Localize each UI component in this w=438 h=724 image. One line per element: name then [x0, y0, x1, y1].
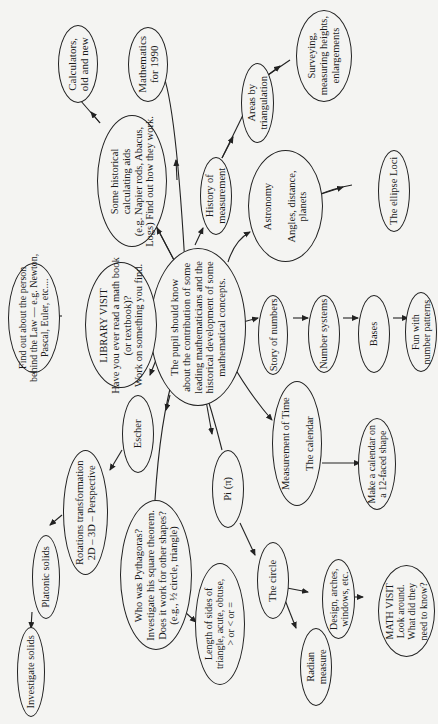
- node-platonic: Platonic solids: [32, 535, 60, 619]
- node-label: Measurement of Time The calendar: [279, 397, 314, 490]
- node-maths1990: Mathematics for 1990: [128, 27, 168, 102]
- node-label: History of measurement: [204, 168, 228, 224]
- node-label: Number systems: [318, 299, 330, 369]
- node-center: The pupil should know about the contribu…: [150, 248, 246, 406]
- edge-circle-radian: [285, 600, 296, 628]
- node-story: Story of numbers: [258, 295, 288, 375]
- node-label: Length of sides of triangle, acute, obtu…: [203, 579, 237, 669]
- node-investigate: Investigate solids: [17, 627, 45, 717]
- node-label: The circle: [267, 559, 279, 601]
- node-label: Investigate solids: [25, 635, 37, 708]
- node-label: Make a calendar on a 12-faced shape: [366, 425, 388, 504]
- node-circle: The circle: [257, 542, 289, 619]
- node-label: Astronomy Angles, distance, planets: [262, 170, 309, 242]
- node-label: Surveying, measuring heights, enlargemen…: [306, 16, 341, 95]
- node-label: The ellipse Loci: [388, 157, 400, 225]
- edge-center-histmeas: [195, 228, 203, 245]
- node-design: Design, arches, windows, etc.: [322, 559, 355, 639]
- node-mathvisit: MATH VISIT Look around. What did they ne…: [378, 565, 435, 657]
- node-label: Escher: [132, 420, 144, 449]
- node-label: Some historical calculating aids (e.g. N…: [109, 116, 156, 247]
- edge-escher-rotations: [110, 450, 122, 470]
- edge-rotations-platonic: [50, 515, 62, 525]
- node-label: Find out about the person behind the Law…: [17, 254, 51, 382]
- node-funpatterns: Fun with number patterns: [405, 292, 437, 372]
- node-lengthsides: Length of sides of triangle, acute, obtu…: [195, 563, 245, 685]
- node-pi: Pi (π): [212, 450, 244, 528]
- node-label: Fun with number patterns: [410, 300, 432, 365]
- node-rotations: Rotations transformation 2D – 3D – Persp…: [63, 450, 108, 575]
- node-areas: Areas by triangulation: [241, 63, 274, 143]
- node-label: LIBRARY VISIT Have you ever read a math …: [98, 257, 145, 393]
- node-label: MATH VISIT Look around. What did they ne…: [384, 582, 429, 640]
- edge-pi-circle: [240, 523, 255, 555]
- concept-map: The pupil should know about the contribu…: [0, 0, 438, 724]
- node-label: Bases: [368, 322, 380, 347]
- node-pythagoras: Who was Pythagoras? Investigate his squa…: [120, 500, 192, 650]
- node-findout: Find out about the person behind the Law…: [8, 263, 60, 373]
- node-timemeas: Measurement of Time The calendar: [272, 381, 322, 506]
- edge-center-astronomy: [228, 232, 250, 262]
- node-calculators: Calculators, old and new: [58, 25, 98, 103]
- node-escher: Escher: [122, 395, 154, 473]
- node-label: Areas by triangulation: [246, 76, 270, 130]
- node-label: Platonic solids: [40, 546, 52, 608]
- node-label: Who was Pythagoras? Investigate his squa…: [133, 510, 180, 641]
- node-label: Mathematics for 1990: [136, 36, 161, 93]
- node-label: Radian measure: [304, 650, 328, 685]
- node-label: Design, arches, windows, etc.: [327, 568, 349, 629]
- node-numsys: Number systems: [308, 295, 340, 373]
- node-radian: Radian measure: [300, 628, 332, 706]
- node-surveying: Surveying, measuring heights, enlargemen…: [296, 10, 352, 102]
- node-ellipse: The ellipse Loci: [378, 150, 410, 232]
- node-histmeas: History of measurement: [200, 157, 232, 235]
- node-label: Pi (π): [222, 477, 234, 501]
- node-calcaids: Some historical calculating aids (e.g. N…: [97, 115, 167, 247]
- edge-platonic-investigate: [31, 612, 32, 628]
- node-label: Calculators, old and new: [66, 37, 91, 91]
- node-label: Rotations transformation 2D – 3D – Persp…: [74, 460, 98, 565]
- node-library: LIBRARY VISIT Have you ever read a math …: [85, 262, 157, 388]
- node-label: The pupil should know about the contribu…: [169, 261, 228, 394]
- edge-circle-design: [287, 588, 308, 592]
- node-astronomy: Astronomy Angles, distance, planets: [248, 150, 323, 262]
- node-bases: Bases: [358, 295, 390, 373]
- node-makecal: Make a calendar on a 12-faced shape: [358, 418, 396, 510]
- node-label: Story of numbers: [267, 299, 279, 372]
